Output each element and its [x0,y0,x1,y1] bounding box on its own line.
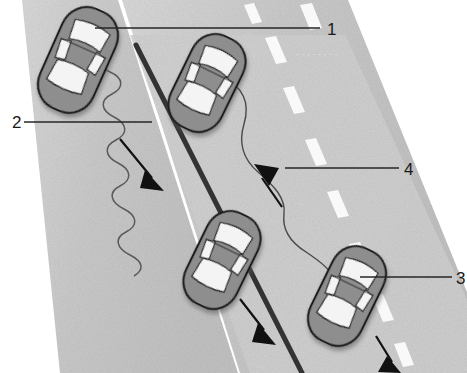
faint-scan-artifact: · · · · · · · · [296,49,337,59]
callout-label-4: 4 [404,160,413,179]
callout-label-2: 2 [12,113,21,132]
callout-label-1: 1 [327,20,336,39]
road-diagram-svg: · · · · · · · · 1 2 3 4 [0,0,467,373]
figure-root: · · · · · · · · 1 2 3 4 [0,0,467,373]
callout-label-3: 3 [456,269,465,288]
